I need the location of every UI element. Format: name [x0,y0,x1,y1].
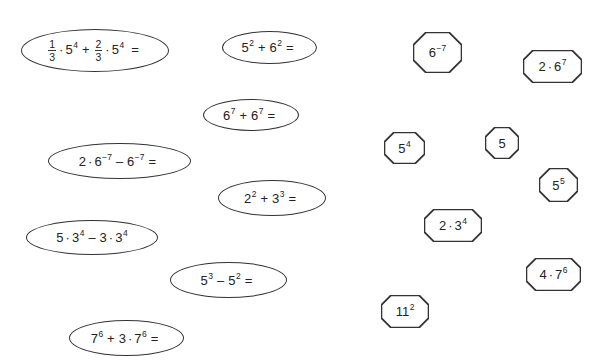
numerator: 1 [48,39,56,52]
base: 6 [554,59,561,74]
base: 3 [272,191,279,206]
base: 6 [270,40,277,55]
expression-card-6[interactable]: 5·34–3·34 [26,220,158,255]
base: 7 [134,331,141,346]
base: 2 [244,191,251,206]
denominator: 3 [49,51,55,63]
answer-card-7[interactable]: 4·76 [526,258,581,291]
multiply-dot: · [88,154,92,169]
base: 6 [429,45,436,60]
exponent: 4 [73,40,78,50]
base: 5 [112,42,119,57]
expression-card-4[interactable]: 2·6−7–6−7= [48,143,191,179]
expression-text: 2·6−7–6−7= [79,155,160,168]
multiply-dot: · [128,331,132,346]
equals-sign: = [286,40,294,55]
exponent: −7 [437,43,447,53]
answer-text: 54 [398,142,410,155]
answer-text: 2·67 [538,60,566,73]
base: 3 [115,230,122,245]
exponent: 3 [208,271,213,281]
exponent: 4 [80,228,85,238]
equals-sign: = [267,108,275,123]
expression-card-3[interactable]: 67+67= [203,99,299,131]
answer-card-3[interactable]: 54 [384,132,425,164]
multiply-dot: · [59,42,63,57]
base: 3 [455,218,462,233]
denominator: 3 [96,51,102,63]
exponent: 4 [462,216,467,226]
fraction: 13 [48,39,56,63]
multiply-dot: · [448,218,452,233]
answer-card-1[interactable]: 6−7 [413,32,462,73]
base: 6 [127,154,134,169]
operator: – [217,273,224,288]
coefficient: 3 [119,331,126,346]
base: 7 [91,331,98,346]
base: 6 [94,154,101,169]
base: 5 [398,141,405,156]
equals-sign: = [245,273,253,288]
multiply-dot: · [548,59,552,74]
coefficient: 2 [439,218,446,233]
equals-sign: = [288,191,296,206]
exponent: −7 [135,152,145,162]
answer-text: 2·34 [439,219,467,232]
expression-text: 22+33= [244,192,300,205]
exponent: 7 [259,106,264,116]
numerator: 2 [95,39,103,52]
multiply-dot: · [109,230,113,245]
exponent: 6 [142,329,147,339]
expression-card-8[interactable]: 76+3·76= [69,320,184,356]
exponent: 2 [236,271,241,281]
operator: + [260,191,268,206]
exponent: 7 [231,106,236,116]
answer-card-6[interactable]: 2·34 [424,209,482,242]
answer-card-2[interactable]: 2·67 [523,50,582,83]
expression-text: 67+67= [223,109,279,122]
coefficient: 2 [538,59,545,74]
expression-text: 13·54+23·54= [47,39,143,63]
expression-card-1[interactable]: 13·54+23·54= [21,29,169,72]
exponent: 6 [98,329,103,339]
base: 5 [241,40,248,55]
exponent: 2 [277,38,282,48]
exponent: −7 [102,152,112,162]
answer-text: 55 [552,179,564,192]
expression-text: 5·34–3·34 [56,231,127,244]
exponent: 2 [252,189,257,199]
answer-card-5[interactable]: 55 [539,168,578,202]
operator: – [116,154,123,169]
answer-text: 6−7 [429,46,446,59]
base: 6 [251,108,258,123]
operator: + [239,108,247,123]
answer-text: 5 [498,137,505,150]
expression-card-7[interactable]: 53–52= [170,262,287,298]
exponent: 3 [280,189,285,199]
base: 6 [223,108,230,123]
base: 5 [498,136,505,151]
expression-card-5[interactable]: 22+33= [218,180,326,216]
expression-card-2[interactable]: 52+62= [222,31,317,64]
exponent: 5 [560,176,565,186]
equals-sign: = [149,154,157,169]
expression-text: 76+3·76= [91,332,163,345]
base: 5 [552,178,559,193]
multiply-dot: · [66,230,70,245]
expression-text: 52+62= [241,41,297,54]
exponent: 2 [249,38,254,48]
exponent: 4 [406,139,411,149]
answer-text: 4·76 [539,268,567,281]
exponent: 6 [563,265,568,275]
answer-card-4[interactable]: 5 [485,127,519,159]
operator: + [258,40,266,55]
base: 5 [228,273,235,288]
answer-card-8[interactable]: 112 [381,295,429,328]
base: 5 [201,273,208,288]
multiply-dot: · [105,42,109,57]
expression-text: 53–52= [201,274,257,287]
base: 11 [396,304,410,319]
base: 7 [555,267,562,282]
equals-sign: = [151,331,159,346]
coefficient: 5 [56,230,63,245]
